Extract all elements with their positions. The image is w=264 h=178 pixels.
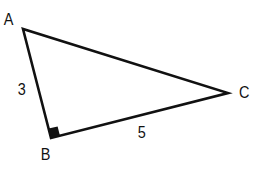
side-label-bc: 5 bbox=[138, 124, 146, 141]
vertex-label-b: B bbox=[41, 146, 51, 163]
triangle-figure bbox=[0, 0, 264, 178]
vertex-label-c: C bbox=[239, 84, 249, 101]
side-label-ab: 3 bbox=[18, 81, 26, 98]
vertex-label-a: A bbox=[4, 11, 14, 28]
triangle-abc bbox=[23, 29, 228, 138]
